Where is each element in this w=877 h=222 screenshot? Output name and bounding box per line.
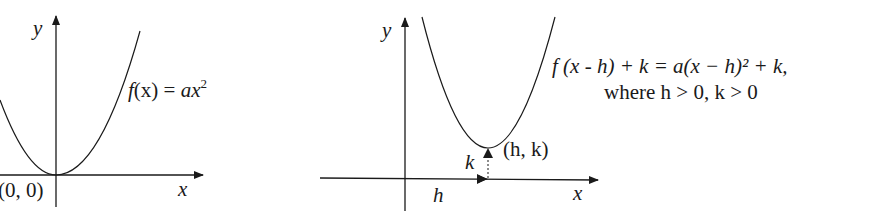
left-function-label: f(x) = ax2 bbox=[128, 78, 207, 103]
f-rhs: ax bbox=[181, 78, 201, 102]
right-x-label: x bbox=[573, 181, 582, 206]
right-graph bbox=[320, 17, 598, 211]
right-function-label-line2: where h > 0, k > 0 bbox=[604, 80, 758, 105]
left-vertex-label: (0, 0) bbox=[0, 178, 44, 203]
f-exp: 2 bbox=[201, 76, 208, 91]
h-arrow-head bbox=[477, 174, 487, 184]
right-function-label-line1: f (x - h) + k = a(x − h)² + k, bbox=[552, 54, 788, 79]
right-vertex-label: (h, k) bbox=[503, 137, 549, 162]
left-x-label: x bbox=[178, 177, 187, 202]
right-x-axis bbox=[320, 178, 598, 180]
f-eq: = bbox=[158, 78, 180, 102]
right-y-label: y bbox=[382, 18, 391, 43]
right-parabola bbox=[422, 17, 555, 148]
left-y-label: y bbox=[33, 16, 42, 41]
f-arg: (x) bbox=[134, 78, 159, 102]
left-parabola bbox=[0, 31, 140, 175]
h-label: h bbox=[433, 183, 444, 208]
k-arrow-head bbox=[483, 148, 493, 158]
k-label: k bbox=[465, 150, 474, 175]
